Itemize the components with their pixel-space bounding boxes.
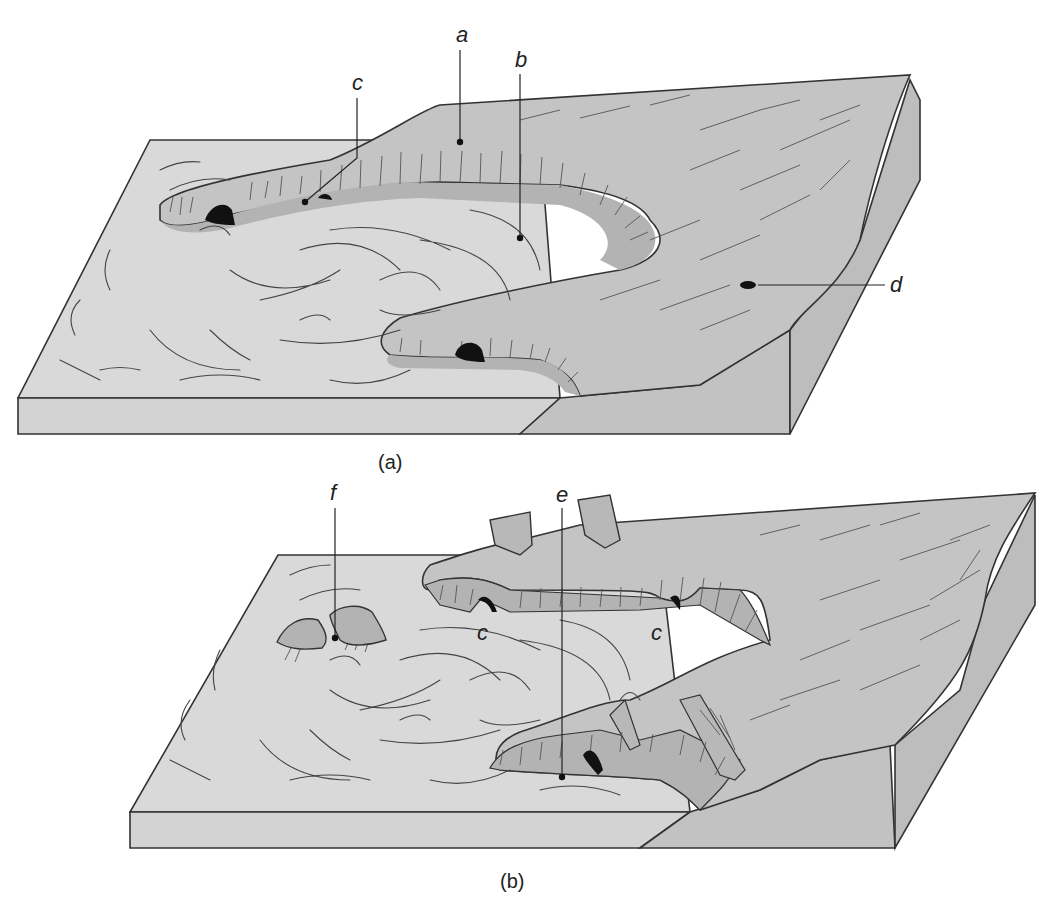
caption-a: (a) [378, 451, 402, 473]
sea-front-b [130, 812, 690, 848]
label-a: a [456, 22, 468, 47]
label-e: e [556, 482, 568, 507]
label-c: c [352, 70, 363, 95]
sea-front-a [18, 398, 560, 434]
panel-a: a b c d (a) [18, 22, 920, 473]
coastal-landforms-figure: a b c d (a) [0, 0, 1059, 901]
label-f: f [330, 480, 339, 505]
panel-b: f e c c (b) [130, 480, 1035, 892]
blowhole-a [740, 281, 756, 289]
label-c-b1: c [477, 620, 488, 645]
label-c-b2: c [651, 620, 662, 645]
caption-b: (b) [500, 870, 524, 892]
label-d: d [890, 272, 903, 297]
label-b: b [515, 47, 527, 72]
